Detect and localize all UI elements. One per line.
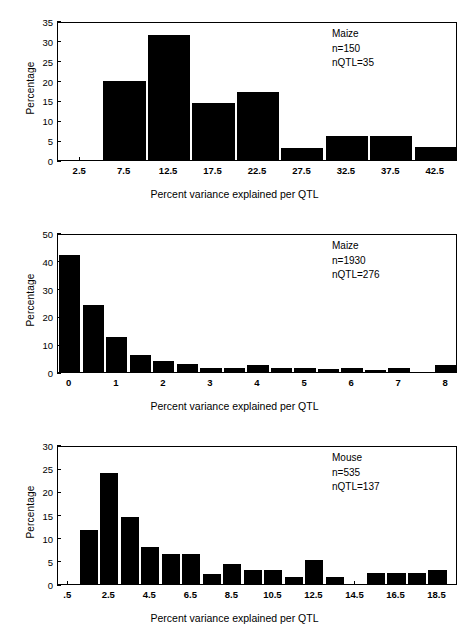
panel-3-plot-area [57, 446, 457, 585]
y-axis-tick [57, 345, 61, 346]
x-axis-tick [190, 581, 191, 585]
histogram-bar [408, 573, 426, 584]
x-axis-tick [303, 369, 304, 373]
x-axis-tick [79, 157, 80, 161]
x-axis-tick [398, 369, 399, 373]
histogram-bar [83, 305, 104, 372]
panel-2-y-axis-title: Percentage [25, 273, 36, 326]
x-axis-tick [67, 581, 68, 585]
histogram-bar [294, 368, 315, 372]
y-axis-tick [57, 561, 61, 562]
y-axis-tick-label: 30 [42, 284, 53, 295]
panel-3-y-axis-title: Percentage [25, 485, 36, 538]
panel-maize-1930: Percentage 01020304050 012345678 Percent… [0, 212, 469, 420]
histogram-bar [224, 368, 245, 372]
x-axis-tick [108, 581, 109, 585]
panel-2-bars [58, 235, 456, 372]
panel-3-nqtl-label: nQTL=137 [332, 480, 380, 495]
histogram-bar [177, 364, 198, 372]
y-axis-tick-label: 0 [48, 368, 53, 379]
y-axis-tick [57, 141, 61, 142]
x-axis-tick-label: 2.5 [73, 165, 86, 176]
histogram-bar [244, 570, 262, 584]
histogram-bar [237, 92, 279, 160]
x-axis-tick-label: 4.5 [143, 589, 156, 600]
y-axis-tick-label: 10 [42, 116, 53, 127]
y-axis-tick-label: 15 [42, 96, 53, 107]
y-axis-tick [57, 41, 61, 42]
panel-1-x-axis-title: Percent variance explained per QTL [0, 188, 469, 200]
y-axis-tick-label: 25 [42, 464, 53, 475]
x-axis-tick [395, 581, 396, 585]
figure-qtl-histograms: Percentage 05101520253035 2.57.512.517.5… [0, 0, 469, 634]
histogram-bar [318, 369, 339, 372]
histogram-bar [271, 368, 292, 372]
histogram-bar [106, 337, 127, 372]
x-axis-tick-label: 6.5 [184, 589, 197, 600]
panel-2-plot-area [57, 234, 457, 373]
x-axis-tick [209, 369, 210, 373]
histogram-bar [182, 554, 200, 584]
x-axis-tick-label: 14.5 [345, 589, 364, 600]
panel-1-y-axis-title: Percentage [25, 61, 36, 114]
y-axis-tick-label: 50 [42, 229, 53, 240]
y-axis-tick-label: 40 [42, 256, 53, 267]
y-axis-tick [57, 289, 61, 290]
y-axis-tick [57, 515, 61, 516]
panel-1-species-label: Maize [332, 27, 374, 42]
histogram-bar [264, 570, 282, 584]
x-axis-tick-label: 5 [301, 377, 306, 388]
histogram-bar [365, 370, 386, 373]
x-axis-tick-label: 7.5 [117, 165, 130, 176]
y-axis-tick [57, 160, 61, 161]
panel-mouse-535: Percentage 051015202530 .52.54.56.58.510… [0, 424, 469, 634]
panel-2-n-label: n=1930 [332, 254, 380, 269]
histogram-bar [153, 361, 174, 372]
histogram-bar [200, 368, 221, 372]
histogram-bar [162, 554, 180, 584]
histogram-bar [59, 255, 80, 372]
x-axis-tick [256, 369, 257, 373]
panel-1-plot-area [57, 22, 457, 161]
histogram-bar [281, 148, 323, 160]
panel-3-x-axis-title: Percent variance explained per QTL [0, 612, 469, 624]
x-axis-tick-label: 27.5 [292, 165, 311, 176]
x-axis-tick-label: 18.5 [427, 589, 446, 600]
x-axis-tick-label: 3 [207, 377, 212, 388]
histogram-bar [326, 136, 368, 160]
x-axis-tick [168, 157, 169, 161]
x-axis-tick [231, 581, 232, 585]
x-axis-tick [212, 157, 213, 161]
x-axis-tick [313, 581, 314, 585]
panel-1-annotation: Maize n=150 nQTL=35 [332, 27, 374, 71]
y-axis-tick [57, 261, 61, 262]
histogram-bar [80, 530, 98, 584]
x-axis-tick [123, 157, 124, 161]
x-axis-tick [272, 581, 273, 585]
panel-3-bars [58, 447, 456, 584]
y-axis-tick-label: 15 [42, 510, 53, 521]
y-axis-tick [57, 121, 61, 122]
y-axis-tick-label: 10 [42, 533, 53, 544]
x-axis-tick [149, 581, 150, 585]
x-axis-tick-label: 4 [254, 377, 259, 388]
histogram-bar [141, 547, 159, 584]
x-axis-tick-label: 32.5 [337, 165, 356, 176]
x-axis-tick-label: 42.5 [426, 165, 445, 176]
x-axis-tick-label: 2 [160, 377, 165, 388]
x-axis-tick-label: 2.5 [102, 589, 115, 600]
histogram-bar [103, 81, 145, 160]
x-axis-tick-label: 1 [113, 377, 118, 388]
histogram-bar [130, 355, 151, 372]
panel-3-n-label: n=535 [332, 466, 380, 481]
histogram-bar [223, 564, 241, 584]
histogram-bar [285, 577, 303, 584]
y-axis-tick [57, 233, 61, 234]
histogram-bar [326, 577, 344, 584]
panel-1-bars [58, 23, 456, 160]
y-axis-tick [57, 81, 61, 82]
x-axis-tick-label: 12.5 [159, 165, 178, 176]
y-axis-tick [57, 469, 61, 470]
x-axis-tick-label: 7 [396, 377, 401, 388]
y-axis-tick-label: 30 [42, 36, 53, 47]
